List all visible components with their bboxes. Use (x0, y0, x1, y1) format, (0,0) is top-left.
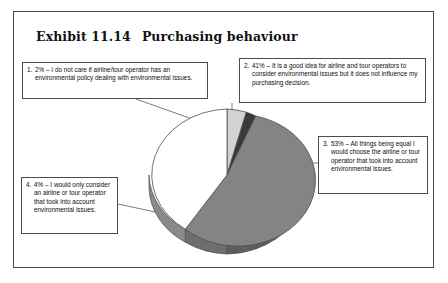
callout-text: 2% – I do not care if airline/tour opera… (35, 66, 203, 83)
callout-marker: 2. (244, 62, 252, 70)
callout-text: 53% – All things being equal I would cho… (331, 140, 423, 173)
callout-text: 41% – It is a good idea for airline and … (252, 62, 421, 87)
callout-label-1: 1. 2% – I do not care if airline/tour op… (22, 62, 208, 99)
callout-label-2: 2. 41% – It is a good idea for airline a… (239, 58, 426, 103)
callout-marker: 3. (323, 140, 331, 148)
exhibit-title-text: Purchasing behaviour (142, 29, 298, 44)
callout-text: 4% – I would only consider an airline or… (34, 181, 113, 214)
callout-marker: 1. (27, 66, 35, 74)
callout-label-4: 4. 4% – I would only consider an airline… (21, 177, 118, 234)
callout-label-3: 3. 53% – All things being equal I would … (318, 136, 428, 194)
page-title: Exhibit 11.14Purchasing behaviour (36, 29, 298, 44)
callout-marker: 4. (26, 181, 34, 189)
exhibit-number: Exhibit 11.14 (36, 29, 131, 44)
